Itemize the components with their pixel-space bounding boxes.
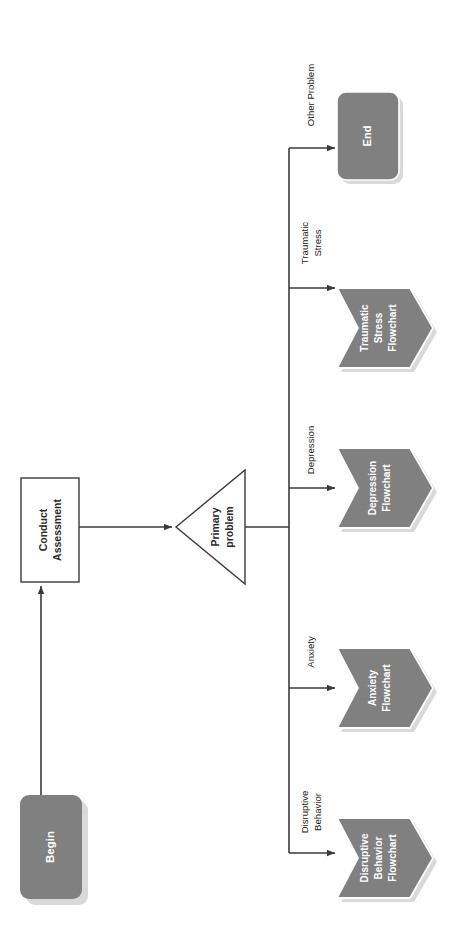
- traumatic-label-line1: Traumatic: [359, 304, 370, 352]
- disruptive-label-line1: Disruptive: [359, 833, 370, 882]
- conduct-assessment-label-line2: Assessment: [51, 499, 63, 561]
- edge-label-traumatic-line2: Stress: [312, 229, 323, 256]
- depression-label-line2: Flowchart: [381, 464, 392, 512]
- flowchart-svg: Begin Conduct Assessment Primary problem…: [0, 0, 458, 950]
- edge-label-traumatic-line1: Traumatic: [299, 222, 310, 264]
- node-conduct-assessment[interactable]: Conduct Assessment: [21, 478, 79, 582]
- edge-labels: Other Problem Traumatic Stress Depressio…: [299, 64, 323, 834]
- primary-problem-label-line1: Primary: [209, 507, 221, 546]
- conduct-assessment-label-line1: Conduct: [37, 508, 49, 551]
- depression-label-line1: Depression: [367, 461, 378, 515]
- edge-label-other-problem: Other Problem: [305, 64, 316, 126]
- anxiety-label-line1: Anxiety: [367, 670, 378, 707]
- primary-problem-label-line2: problem: [223, 506, 235, 547]
- connectors: [41, 148, 335, 853]
- edge-label-disruptive-line1: Disruptive: [299, 791, 310, 834]
- edge-label-disruptive-line2: Behavior: [312, 792, 323, 831]
- end-label: End: [361, 126, 373, 147]
- edge-label-depression: Depression: [305, 426, 316, 475]
- flowchart-canvas: Begin Conduct Assessment Primary problem…: [0, 0, 458, 950]
- begin-label: Begin: [44, 831, 56, 863]
- disruptive-label-line2: Behavior: [373, 836, 384, 879]
- node-primary-problem-decision[interactable]: Primary problem: [176, 470, 245, 584]
- traumatic-label-line2: Stress: [373, 312, 384, 343]
- edge-label-anxiety: Anxiety: [305, 636, 316, 668]
- anxiety-label-line2: Flowchart: [381, 664, 392, 712]
- node-begin[interactable]: Begin: [20, 795, 82, 899]
- traumatic-label-line3: Flowchart: [387, 304, 398, 352]
- disruptive-label-line3: Flowchart: [387, 834, 398, 882]
- node-end[interactable]: End: [337, 92, 399, 180]
